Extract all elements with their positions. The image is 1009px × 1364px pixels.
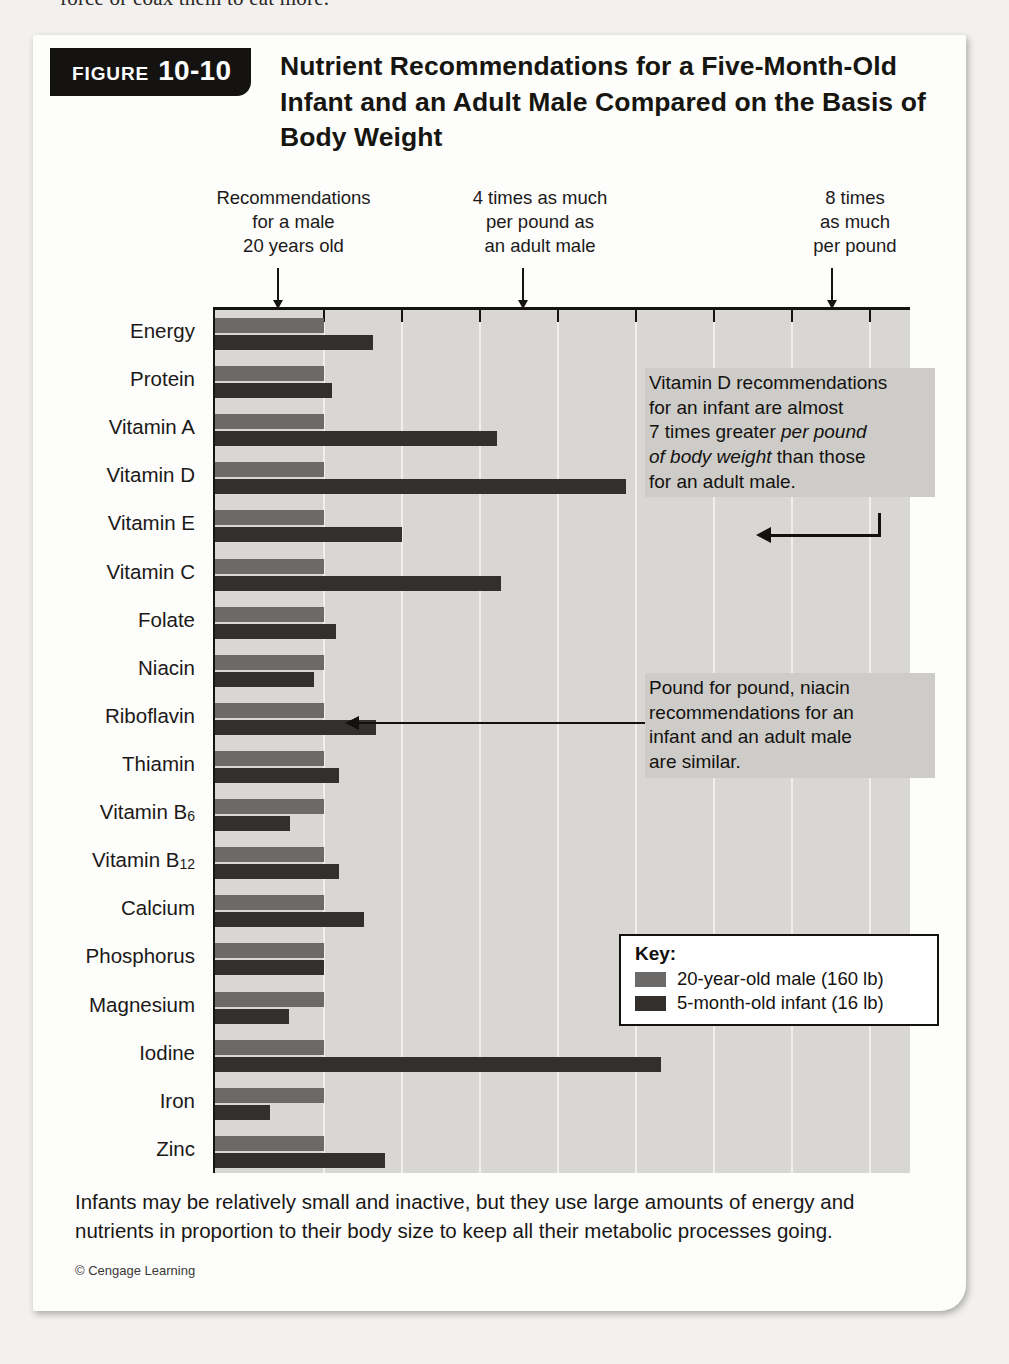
legend-label-0: 20-year-old male (160 lb) — [677, 968, 884, 990]
bar-iodine-infant — [215, 1057, 661, 1072]
bar-row — [215, 502, 910, 550]
category-label-zinc: Zinc — [156, 1125, 195, 1173]
category-label-vitamin-a: Vitamin A — [109, 403, 195, 451]
bar-thiamin-adult — [215, 751, 324, 766]
category-label-vitamin-d: Vitamin D — [107, 451, 196, 499]
bar-row — [215, 1128, 910, 1176]
bar-folate-adult — [215, 607, 324, 622]
bar-vitamin-e-adult — [215, 510, 324, 525]
bar-row — [215, 551, 910, 599]
legend-swatch-1 — [635, 996, 666, 1011]
figure-credit: © Cengage Learning — [75, 1263, 195, 1278]
bar-vitamin-a-adult — [215, 414, 324, 429]
bar-vitamin-a-infant — [215, 431, 497, 446]
bar-folate-infant — [215, 624, 336, 639]
category-label-vitamin-e: Vitamin E — [108, 499, 195, 547]
category-label-thiamin: Thiamin — [122, 740, 195, 788]
legend-item-1: 5-month-old infant (16 lb) — [635, 992, 925, 1014]
bar-vitamin-b6-adult — [215, 799, 324, 814]
legend-items: 20-year-old male (160 lb)5-month-old inf… — [635, 968, 925, 1014]
bar-vitamin-b12-adult — [215, 847, 324, 862]
bar-vitamin-b6-infant — [215, 816, 290, 831]
category-label-vitamin-c: Vitamin C — [107, 548, 196, 596]
previous-paragraph-bleed: force or coax them to eat more. — [60, 0, 329, 11]
category-label-magnesium: Magnesium — [89, 981, 195, 1029]
bar-protein-infant — [215, 383, 332, 398]
bar-niacin-adult — [215, 655, 324, 670]
bar-phosphorus-infant — [215, 960, 324, 975]
legend-label-1: 5-month-old infant (16 lb) — [677, 992, 884, 1014]
bar-calcium-adult — [215, 895, 324, 910]
bar-energy-infant — [215, 335, 373, 350]
bar-calcium-infant — [215, 912, 364, 927]
figure-header: FIGURE 10-10 Nutrient Recommendations fo… — [33, 35, 966, 180]
arrow-head-icon-vitamin-d — [756, 527, 771, 543]
legend-swatch-0 — [635, 972, 666, 987]
bar-zinc-infant — [215, 1153, 385, 1168]
bar-magnesium-infant — [215, 1009, 289, 1024]
bar-energy-adult — [215, 318, 324, 333]
bar-vitamin-d-adult — [215, 462, 324, 477]
column-note-2: 4 times as much per pound as an adult ma… — [445, 186, 635, 258]
figure-card: FIGURE 10-10 Nutrient Recommendations fo… — [33, 35, 966, 1311]
callout-niacin: Pound for pound, niacinrecommendations f… — [645, 673, 935, 778]
bar-row — [215, 791, 910, 839]
figure-number-badge: FIGURE 10-10 — [50, 48, 251, 96]
down-arrow-icon-3 — [831, 268, 833, 301]
bar-vitamin-c-adult — [215, 559, 324, 574]
category-label-energy: Energy — [130, 307, 195, 355]
arrow-head-icon-niacin — [345, 716, 359, 730]
down-arrow-icon-2 — [522, 268, 524, 301]
bar-thiamin-infant — [215, 768, 339, 783]
bar-vitamin-d-infant — [215, 479, 626, 494]
bar-row — [215, 1080, 910, 1128]
callout-leader-horizontal-vitamin-d — [768, 534, 880, 537]
bar-vitamin-b12-infant — [215, 864, 339, 879]
textbook-page: force or coax them to eat more. FIGURE 1… — [0, 0, 1009, 1364]
bar-row — [215, 839, 910, 887]
callout-leader-horizontal-niacin — [358, 722, 645, 724]
category-label-phosphorus: Phosphorus — [86, 932, 195, 980]
bar-iodine-adult — [215, 1040, 324, 1055]
category-label-vitamin-b12: Vitamin B12 — [92, 836, 195, 884]
bar-protein-adult — [215, 366, 324, 381]
callout-vitamin-d: Vitamin D recommendationsfor an infant a… — [645, 368, 935, 497]
legend-title: Key: — [635, 943, 925, 965]
down-arrow-icon-1 — [277, 268, 279, 301]
figure-number: 10-10 — [158, 55, 231, 87]
bar-zinc-adult — [215, 1136, 324, 1151]
column-note-1: Recommendations for a male 20 years old — [185, 186, 402, 258]
bar-vitamin-e-infant — [215, 527, 402, 542]
category-label-protein: Protein — [130, 355, 195, 403]
bar-magnesium-adult — [215, 992, 324, 1007]
category-label-niacin: Niacin — [138, 644, 195, 692]
category-label-vitamin-b6: Vitamin B6 — [100, 788, 195, 836]
bar-row — [215, 310, 910, 358]
bar-row — [215, 887, 910, 935]
category-label-riboflavin: Riboflavin — [105, 692, 195, 740]
bar-iron-infant — [215, 1105, 270, 1120]
column-note-3: 8 times as much per pound — [775, 186, 935, 258]
legend-item-0: 20-year-old male (160 lb) — [635, 968, 925, 990]
figure-label: FIGURE — [72, 63, 149, 85]
category-axis-labels: EnergyProteinVitamin AVitamin DVitamin E… — [33, 307, 205, 1173]
bar-vitamin-c-infant — [215, 576, 501, 591]
category-label-iron: Iron — [160, 1077, 195, 1125]
figure-caption: Infants may be relatively small and inac… — [75, 1187, 930, 1245]
bar-iron-adult — [215, 1088, 324, 1103]
chart-legend: Key: 20-year-old male (160 lb)5-month-ol… — [619, 934, 939, 1026]
category-label-calcium: Calcium — [121, 884, 195, 932]
bar-niacin-infant — [215, 672, 314, 687]
category-label-iodine: Iodine — [139, 1029, 195, 1077]
bar-riboflavin-adult — [215, 703, 324, 718]
figure-title: Nutrient Recommendations for a Five-Mont… — [280, 49, 940, 156]
bar-phosphorus-adult — [215, 943, 324, 958]
bar-row — [215, 599, 910, 647]
bar-row — [215, 1032, 910, 1080]
category-label-folate: Folate — [138, 596, 195, 644]
